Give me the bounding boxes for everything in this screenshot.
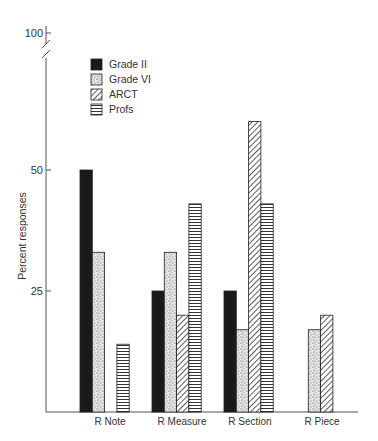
- bar-grade-ii: [80, 170, 92, 412]
- bar-grade-ii: [224, 291, 236, 412]
- bar-profs: [117, 344, 129, 412]
- bar-grade-vi: [164, 252, 176, 412]
- legend-swatch: [91, 59, 102, 70]
- bar-arct: [177, 315, 189, 412]
- y-tick-label: 25: [31, 285, 43, 297]
- bar-chart: 2550100 Percent responses R NoteR Measur…: [0, 0, 378, 441]
- category-labels: R NoteR MeasureR SectionR Piece: [94, 416, 340, 427]
- legend-swatch: [91, 104, 102, 115]
- legend-swatch: [91, 74, 102, 85]
- legend-label: Profs: [109, 103, 134, 115]
- y-axis-label: Percent responses: [16, 192, 28, 280]
- bar-grade-vi: [236, 330, 248, 412]
- category-label: R Section: [228, 416, 271, 427]
- legend-label: Grade II: [109, 58, 147, 70]
- y-tick-label: 50: [31, 164, 43, 176]
- axis-break-mark: [42, 50, 50, 58]
- legend-label: Grade VI: [109, 73, 151, 85]
- y-axis: [42, 26, 50, 412]
- legend-swatch: [91, 89, 102, 100]
- y-ticks: 2550100: [25, 27, 51, 297]
- category-label: R Piece: [304, 416, 339, 427]
- legend: Grade IIGrade VIARCTProfs: [91, 58, 151, 115]
- bar-grade-vi: [92, 252, 104, 412]
- bar-profs: [261, 204, 273, 412]
- bar-arct: [249, 122, 261, 412]
- bar-grade-ii: [152, 291, 164, 412]
- bar-grade-vi: [308, 330, 320, 412]
- category-label: R Note: [94, 416, 126, 427]
- bars: [80, 122, 333, 412]
- category-label: R Measure: [158, 416, 207, 427]
- bar-arct: [321, 315, 333, 412]
- bar-profs: [189, 204, 201, 412]
- legend-label: ARCT: [109, 88, 138, 100]
- y-tick-label: 100: [25, 27, 43, 39]
